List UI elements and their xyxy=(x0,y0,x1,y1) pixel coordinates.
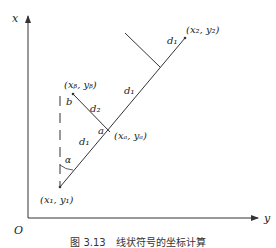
label-d1-lower: d₁ xyxy=(79,136,89,147)
main-line xyxy=(60,38,185,187)
label-alpha: α xyxy=(65,155,71,165)
perpendicular-top xyxy=(125,33,160,67)
origin-label: O xyxy=(14,224,23,237)
figure-caption: 图 3.13 线状符号的坐标计算 xyxy=(70,236,205,248)
point-pb xyxy=(72,93,75,96)
label-d1-top: d₁ xyxy=(167,35,177,46)
alpha-arc xyxy=(60,165,73,170)
label-a: a xyxy=(98,125,104,136)
label-p1: (x₁, y₁) xyxy=(40,194,74,205)
label-p2: (x₂, y₂) xyxy=(186,24,220,35)
point-p2 xyxy=(184,37,187,40)
y-axis-label: y xyxy=(263,212,271,225)
label-d2: d₂ xyxy=(90,103,100,114)
label-pa: (xₐ, yₐ) xyxy=(114,130,147,141)
label-b: b xyxy=(66,96,72,107)
coordinate-diagram: x y O (x₁, y₁) (x₂, y₂) (xₐ, yₐ) (xᵦ, yᵦ… xyxy=(0,0,276,248)
label-pb: (xᵦ, yᵦ) xyxy=(64,79,97,90)
label-d1-upper: d₁ xyxy=(124,85,134,96)
x-axis-label: x xyxy=(12,12,19,25)
